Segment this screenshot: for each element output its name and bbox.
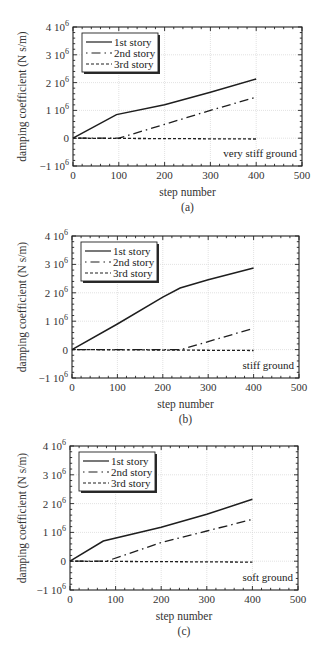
panel-caption: (b) (179, 413, 193, 426)
y-tick-label: 2 106 (45, 285, 68, 299)
x-tick-label: 300 (202, 169, 219, 181)
ground-type-annotation: soft ground (243, 571, 294, 583)
legend-label: 3rd story (114, 58, 154, 70)
x-tick-label: 400 (244, 593, 261, 605)
x-tick-label: 300 (200, 381, 217, 393)
y-tick-label: −1 106 (37, 582, 66, 596)
y-tick-label: −1 106 (40, 158, 69, 172)
ground-type-annotation: very stiff ground (223, 147, 297, 159)
x-axis-title: step number (157, 398, 214, 411)
x-tick-label: 500 (290, 593, 307, 605)
y-axis-title: damping coefficient (N s/m) (16, 453, 29, 584)
legend: 1st story2nd story3rd story (81, 242, 159, 283)
chart-svg: 0100200300400500−1 10601 1062 1063 1064 … (0, 215, 322, 430)
x-tick-label: 200 (155, 381, 172, 393)
y-tick-label: 0 (64, 132, 70, 144)
ground-type-annotation: stiff ground (243, 359, 295, 371)
x-tick-label: 0 (70, 169, 76, 181)
y-tick-label: 2 106 (46, 75, 69, 89)
y-tick-label: 0 (61, 555, 67, 567)
x-tick-label: 200 (153, 593, 170, 605)
y-tick-label: 1 106 (43, 524, 66, 538)
y-tick-label: 4 106 (46, 19, 69, 33)
y-tick-label: 2 106 (43, 496, 66, 510)
x-tick-label: 100 (109, 381, 126, 393)
panel-caption: (c) (178, 625, 191, 638)
y-axis-title: damping coefficient (N s/m) (16, 242, 29, 373)
x-tick-label: 200 (156, 169, 173, 181)
x-axis-title: step number (156, 610, 213, 623)
x-tick-label: 400 (245, 381, 262, 393)
panel-caption: (a) (181, 201, 194, 214)
chart-panel-b: 0100200300400500−1 10601 1062 1063 1064 … (0, 215, 322, 430)
x-tick-label: 100 (107, 593, 124, 605)
series-3rd-story (70, 561, 252, 562)
legend-label: 3rd story (111, 477, 151, 489)
x-tick-label: 100 (111, 169, 128, 181)
y-tick-label: 1 106 (46, 102, 69, 116)
y-tick-label: 1 106 (45, 313, 68, 327)
y-axis-title: damping coefficient (N s/m) (16, 31, 29, 162)
chart-svg: 0100200300400500−1 10601 1062 1063 1064 … (0, 430, 322, 652)
x-tick-label: 400 (248, 169, 265, 181)
legend-label: 3rd story (113, 267, 153, 279)
y-tick-label: 3 106 (46, 47, 69, 61)
legend: 1st story2nd story3rd story (79, 452, 157, 493)
y-tick-label: 4 106 (43, 438, 66, 452)
chart-svg: 0100200300400500−1 10601 1062 1063 1064 … (0, 0, 322, 215)
y-tick-label: −1 106 (39, 370, 68, 384)
chart-panel-a: 0100200300400500−1 10601 1062 1063 1064 … (0, 0, 322, 215)
x-tick-label: 500 (294, 169, 311, 181)
x-tick-label: 500 (291, 381, 308, 393)
legend: 1st story2nd story3rd story (82, 33, 160, 74)
chart-panel-c: 0100200300400500−1 10601 1062 1063 1064 … (0, 430, 322, 652)
y-tick-label: 3 106 (43, 467, 66, 481)
x-tick-label: 300 (199, 593, 216, 605)
x-tick-label: 0 (69, 381, 75, 393)
series-3rd-story (73, 138, 256, 139)
y-tick-label: 3 106 (45, 256, 68, 270)
y-tick-label: 0 (63, 344, 69, 356)
x-axis-title: step number (159, 186, 216, 199)
y-tick-label: 4 106 (45, 228, 68, 242)
x-tick-label: 0 (67, 593, 73, 605)
